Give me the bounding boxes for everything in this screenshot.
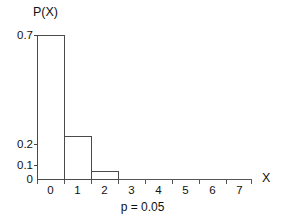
x-tick-label-2: 2	[93, 184, 117, 196]
x-axis-label: X	[262, 172, 270, 185]
y-axis-label: P(X)	[33, 5, 58, 19]
y-tick-label-0: 0	[5, 174, 33, 186]
chart-caption: p = 0.05	[0, 200, 285, 214]
y-tick-label-0-2: 0.2	[5, 139, 33, 151]
x-tick-label-4: 4	[147, 184, 171, 196]
x-tick-label-0: 0	[39, 184, 63, 196]
bar-x-0	[37, 35, 65, 180]
x-tick-label-7: 7	[228, 184, 252, 196]
x-tick-label-6: 6	[201, 184, 225, 196]
y-tick-label-0-7: 0.7	[5, 30, 33, 42]
plot-area: P(X) 0.7 0.2 0.1 0 0 1 2 3 4 5 6	[0, 0, 285, 221]
x-tick-label-1: 1	[66, 184, 90, 196]
probability-distribution-chart: P(X) 0.7 0.2 0.1 0 0 1 2 3 4 5 6	[0, 0, 285, 221]
y-tick-label-0-1: 0.1	[5, 160, 33, 172]
bar-x-2	[91, 171, 119, 180]
x-tick-label-5: 5	[174, 184, 198, 196]
x-tick-label-3: 3	[120, 184, 144, 196]
bar-x-1	[64, 136, 92, 180]
